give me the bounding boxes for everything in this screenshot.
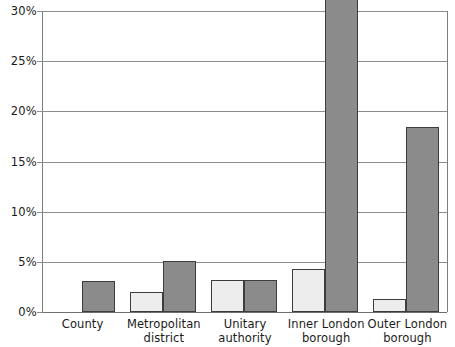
y-tick-label: 20%	[0, 104, 37, 118]
bar	[373, 299, 406, 312]
gridline-0%	[43, 312, 447, 313]
bar	[82, 281, 115, 312]
y-tick-mark	[37, 111, 43, 112]
x-tick-label-line: Inner London	[288, 317, 365, 331]
gridline-5%	[43, 262, 447, 263]
y-tick-mark	[37, 11, 43, 12]
bar	[244, 280, 277, 312]
x-tick-label-line: borough	[367, 331, 448, 345]
gridline-30%	[43, 11, 447, 12]
y-tick-label: 10%	[0, 205, 37, 219]
gridline-15%	[43, 162, 447, 163]
x-tick-label: Inner Londonborough	[286, 317, 367, 345]
x-tick-label-line: Unitary	[224, 317, 267, 331]
bar	[211, 280, 244, 312]
y-tick-label: 30%	[0, 4, 37, 18]
y-tick-mark	[37, 162, 43, 163]
y-tick-label: 0%	[0, 305, 37, 319]
plot-area	[42, 11, 448, 312]
gridline-20%	[43, 111, 447, 112]
bar	[163, 261, 196, 312]
bar	[406, 127, 439, 312]
bar-chart: 0%5%10%15%20%25%30% CountyMetropolitandi…	[0, 0, 455, 347]
y-tick-mark	[37, 262, 43, 263]
x-tick-label: Outer Londonborough	[367, 317, 448, 345]
gridline-10%	[43, 212, 447, 213]
x-tick-label: County	[42, 317, 123, 331]
x-tick-label-line: Outer London	[368, 317, 448, 331]
x-tick-label-line: authority	[204, 331, 285, 345]
y-tick-mark	[37, 312, 43, 313]
gridline-25%	[43, 61, 447, 62]
x-tick-label: Unitaryauthority	[204, 317, 285, 345]
y-tick-label: 15%	[0, 155, 37, 169]
y-tick-mark	[37, 212, 43, 213]
x-tick-label: Metropolitandistrict	[123, 317, 204, 345]
y-tick-mark	[37, 61, 43, 62]
x-tick-label-line: Metropolitan	[127, 317, 201, 331]
bar	[292, 269, 325, 312]
bar	[130, 292, 163, 312]
x-tick-label-line: borough	[286, 331, 367, 345]
y-tick-label: 25%	[0, 54, 37, 68]
y-tick-label: 5%	[0, 255, 37, 269]
x-tick-label-line: County	[62, 317, 104, 331]
x-tick-label-line: district	[123, 331, 204, 345]
bar	[325, 0, 358, 312]
x-axis: CountyMetropolitandistrictUnitaryauthori…	[42, 314, 448, 347]
